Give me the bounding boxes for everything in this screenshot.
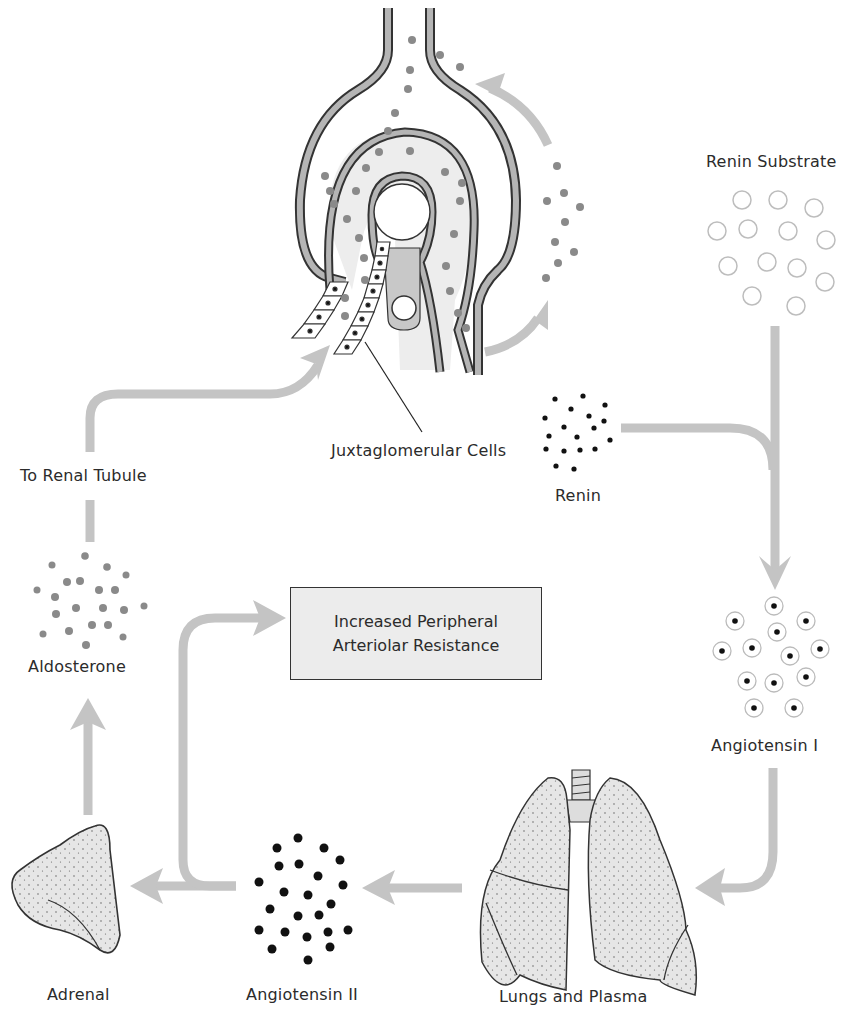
adrenal-illustration [12,825,120,953]
arrowhead-icon [525,300,548,333]
label-angiotensin-ii: Angiotensin II [246,985,358,1004]
effect-box-line-2: Arteriolar Resistance [333,634,500,658]
arrow-angiotensin-i-to-lungs [710,768,773,888]
effect-box-peripheral-resistance: Increased Peripheral Arteriolar Resistan… [290,587,542,680]
arrow-angiotensin-ii-to-adrenal [150,618,268,886]
arrow-aldosterone-to-renal-tubule [90,365,318,542]
aldosterone-molecules [34,552,148,649]
label-to-renal-tubule: To Renal Tubule [20,466,147,485]
label-angiotensin-i: Angiotensin I [711,736,818,755]
label-adrenal: Adrenal [47,985,110,1004]
label-renin-substrate: Renin Substrate [706,152,837,171]
label-aldosterone: Aldosterone [28,657,126,676]
effect-box-line-1: Increased Peripheral [334,610,498,634]
renin-molecules [542,393,612,471]
lungs-illustration [480,770,696,995]
angiotensin-i-molecules [713,597,829,717]
label-renin: Renin [555,486,601,505]
glomerulus-illustration [292,8,584,432]
juxtaglomerular-cell-stack-outer [292,282,348,338]
label-lungs-and-plasma: Lungs and Plasma [499,987,648,1006]
arrow-renin-to-angiotensin-i [621,326,775,570]
arrowhead-icon [475,73,510,102]
renin-substrate-molecules [708,191,835,315]
angiotensin-ii-molecules [255,834,353,965]
label-juxtaglomerular-cells: Juxtaglomerular Cells [331,441,506,460]
arrow-renin-release-down [485,318,538,352]
